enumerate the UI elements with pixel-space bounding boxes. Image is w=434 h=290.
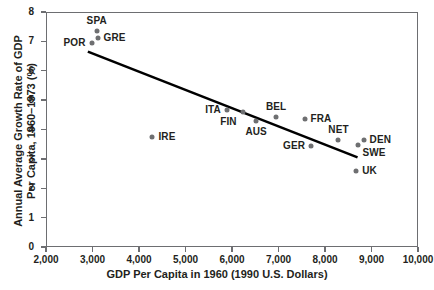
data-point-label: NET [328, 125, 348, 135]
y-tick-mark [41, 188, 46, 189]
data-point [309, 143, 314, 148]
data-point [150, 135, 155, 140]
x-axis-title: GDP Per Capita in 1960 (1990 U.S. Dollar… [0, 268, 434, 280]
data-point [302, 116, 307, 121]
data-point [336, 138, 341, 143]
trend-line [46, 12, 418, 247]
plot-area: PORSPAGREIREITAFINAUSBELFRAGERNETUKSWEDE… [46, 12, 418, 247]
y-axis-title-line2: Per Capita, 1960–1973 (%) [25, 63, 37, 199]
y-tick-mark [41, 158, 46, 159]
data-point [240, 110, 245, 115]
y-tick-mark [41, 129, 46, 130]
x-tick-mark [278, 247, 279, 252]
data-point-label: GRE [104, 33, 126, 43]
y-tick-mark [41, 41, 46, 42]
data-point-label: ITA [205, 105, 221, 115]
data-point-label: GER [283, 141, 305, 151]
x-tick-mark [371, 247, 372, 252]
data-point-label: DEN [370, 135, 391, 145]
data-point-label: SWE [363, 148, 386, 158]
data-point-label: UK [362, 166, 377, 176]
data-point [361, 137, 366, 142]
data-point [354, 168, 359, 173]
x-tick-label: 10,000 [390, 255, 434, 265]
data-point-label: BEL [266, 102, 286, 112]
y-tick-mark [41, 11, 46, 12]
y-tick-mark [41, 99, 46, 100]
data-point [95, 36, 100, 41]
x-tick-mark [324, 247, 325, 252]
scatter-chart: PORSPAGREIREITAFINAUSBELFRAGERNETUKSWEDE… [0, 0, 434, 290]
x-tick-mark [417, 247, 418, 252]
x-tick-mark [185, 247, 186, 252]
data-point-label: IRE [158, 132, 175, 142]
y-tick-mark [41, 217, 46, 218]
x-tick-mark [231, 247, 232, 252]
data-point-label: SPA [87, 16, 107, 26]
x-tick-mark [45, 247, 46, 252]
data-point [94, 29, 99, 34]
y-tick-mark [41, 70, 46, 71]
data-point-label: FRA [311, 114, 332, 124]
data-point [89, 40, 94, 45]
data-point-label: POR [64, 38, 86, 48]
data-point-label: AUS [245, 127, 266, 137]
data-point [355, 142, 360, 147]
x-tick-mark [92, 247, 93, 252]
y-axis-title: Annual Average Growth Rate of GDP Per Ca… [12, 9, 38, 253]
data-point-label: FIN [220, 117, 236, 127]
data-point [224, 107, 229, 112]
data-point [274, 114, 279, 119]
data-point [254, 118, 259, 123]
x-tick-mark [138, 247, 139, 252]
y-axis-title-line1: Annual Average Growth Rate of GDP [12, 35, 24, 227]
